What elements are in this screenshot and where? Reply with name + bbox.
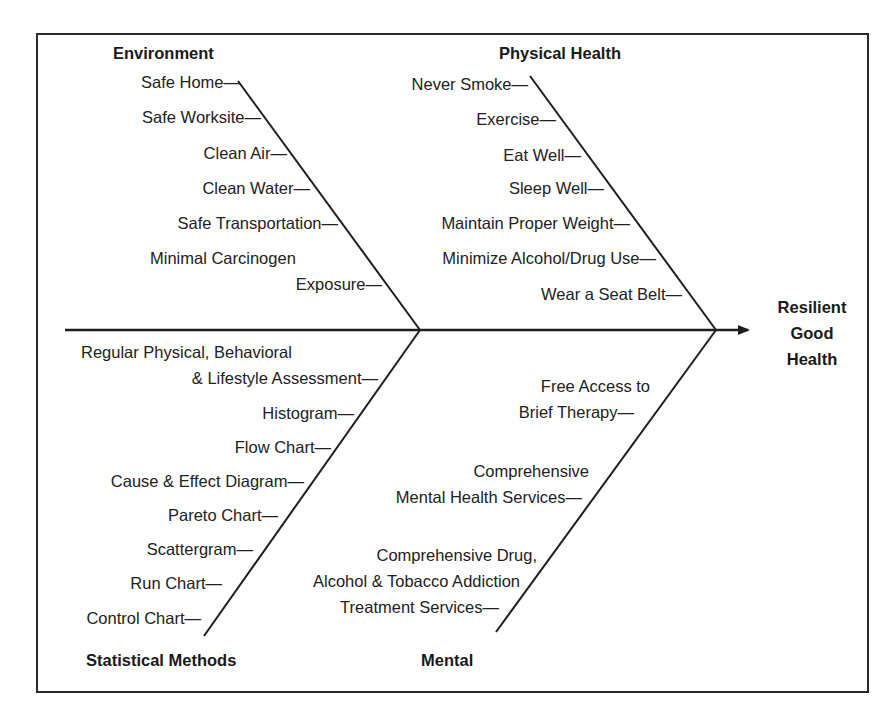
effect-line-3: Health (752, 346, 872, 372)
effect-line-1: Resilient (752, 294, 872, 320)
cause-safe-transportation: Safe Transportation— (177, 213, 338, 233)
cause-exposure: Exposure— (296, 274, 382, 294)
cause-addiction-services-line-1: Comprehensive Drug, (377, 545, 538, 565)
cause-safe-worksite: Safe Worksite— (142, 107, 261, 127)
cause-histogram: Histogram— (262, 403, 354, 423)
cause-addiction-services-line-2: Alcohol & Tobacco Addiction (313, 571, 520, 591)
cause-sleep-well: Sleep Well— (509, 178, 604, 198)
cause-minimize-alcohol-drug-use: Minimize Alcohol/Drug Use— (442, 248, 656, 268)
cause-scattergram: Scattergram— (147, 539, 253, 559)
cause-minimal-carcinogen: Minimal Carcinogen (150, 248, 296, 268)
cause-flow-chart: Flow Chart— (235, 437, 331, 457)
category-title-physical-health: Physical Health (499, 44, 621, 63)
effect-label: Resilient Good Health (752, 294, 872, 372)
cause-never-smoke: Never Smoke— (412, 74, 528, 94)
cause-regular-assessment-line-2: & Lifestyle Assessment— (192, 368, 378, 388)
cause-maintain-proper-weight: Maintain Proper Weight— (441, 213, 630, 233)
category-title-statistical-methods: Statistical Methods (86, 651, 236, 670)
cause-pareto-chart: Pareto Chart— (168, 505, 278, 525)
cause-regular-assessment-line-1: Regular Physical, Behavioral (81, 342, 292, 362)
cause-mental-health-services-line-2: Mental Health Services— (396, 487, 582, 507)
effect-line-2: Good (752, 320, 872, 346)
category-title-environment: Environment (113, 44, 214, 63)
cause-clean-water: Clean Water— (202, 178, 310, 198)
cause-run-chart: Run Chart— (130, 573, 222, 593)
cause-free-access-line-2: Brief Therapy— (519, 402, 634, 422)
cause-safe-home: Safe Home— (141, 72, 240, 92)
cause-eat-well: Eat Well— (503, 145, 581, 165)
cause-free-access-line-1: Free Access to (541, 376, 650, 396)
category-title-mental: Mental (421, 651, 473, 670)
cause-wear-seat-belt: Wear a Seat Belt— (541, 284, 682, 304)
cause-addiction-services-line-3: Treatment Services— (340, 597, 499, 617)
cause-control-chart: Control Chart— (86, 608, 201, 628)
cause-cause-effect-diagram: Cause & Effect Diagram— (111, 471, 304, 491)
cause-mental-health-services-line-1: Comprehensive (473, 461, 589, 481)
cause-exercise: Exercise— (476, 109, 556, 129)
cause-clean-air: Clean Air— (204, 143, 287, 163)
